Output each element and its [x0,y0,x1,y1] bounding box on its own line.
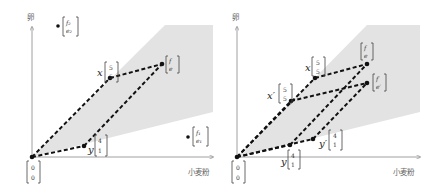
svg-text:y: y [87,144,94,155]
svg-text:f′: f′ [375,75,380,83]
svg-text:f₁: f₁ [195,129,201,137]
svg-text:0: 0 [31,164,35,171]
svg-text:f₂: f₂ [65,19,71,27]
svg-text:e₁: e₁ [196,137,202,144]
svg-text:0: 0 [236,164,240,171]
point-y [288,143,293,148]
x-axis-label: 小麦粉 [393,167,415,177]
svg-text:y′: y′ [318,138,328,149]
svg-text:4: 4 [333,132,337,139]
svg-text:5: 5 [316,59,320,66]
origin-vector: 0 0 [27,161,40,183]
svg-text:1: 1 [333,141,337,148]
label-x-prime: x′ 5 5 [267,84,292,103]
svg-text:e′: e′ [376,83,382,90]
point-p2 [56,24,60,28]
svg-text:4: 4 [291,152,295,159]
svg-text:5: 5 [109,64,113,71]
left-panel: 卵 小麦粉 0 0 x 5 5 y 4 1 f e [27,12,213,183]
feasible-cone [237,25,420,157]
origin-point [235,155,240,160]
svg-text:1: 1 [291,161,295,168]
svg-text:5: 5 [283,86,287,93]
y-axis-label: 卵 [232,12,239,22]
origin-vector: 0 0 [232,161,245,183]
svg-text:1: 1 [98,147,102,154]
svg-text:x′: x′ [267,90,276,101]
svg-text:x: x [97,67,103,78]
svg-text:5: 5 [283,95,287,102]
svg-text:e: e [364,52,368,59]
svg-text:5: 5 [109,73,113,80]
point-f [160,62,165,67]
x-axis-label: 小麦粉 [188,167,210,177]
svg-text:4: 4 [98,137,102,144]
svg-text:0: 0 [236,174,240,181]
point-f-prime [365,81,370,86]
label-y: y 4 1 [280,150,300,169]
point-p1 [186,135,190,139]
y-axis-label: 卵 [27,12,34,22]
label-p1: f₁ e₁ [193,127,208,146]
label-p2: f₂ e₂ [63,17,78,36]
diagram-canvas: 卵 小麦粉 0 0 x 5 5 y 4 1 f e [0,0,440,190]
point-y [82,144,87,149]
svg-text:5: 5 [316,68,320,75]
svg-text:y: y [280,156,287,167]
svg-text:e₂: e₂ [66,27,73,34]
svg-text:e: e [169,65,173,72]
point-f [365,62,370,67]
origin-point [30,155,35,160]
svg-text:x: x [305,62,311,73]
point-y-prime [311,137,316,142]
feasible-cone [32,25,213,157]
svg-text:0: 0 [31,174,35,181]
right-panel: 卵 小麦粉 0 0 x 5 5 x′ 5 5 y′ 4 1 y 4 [232,12,420,183]
